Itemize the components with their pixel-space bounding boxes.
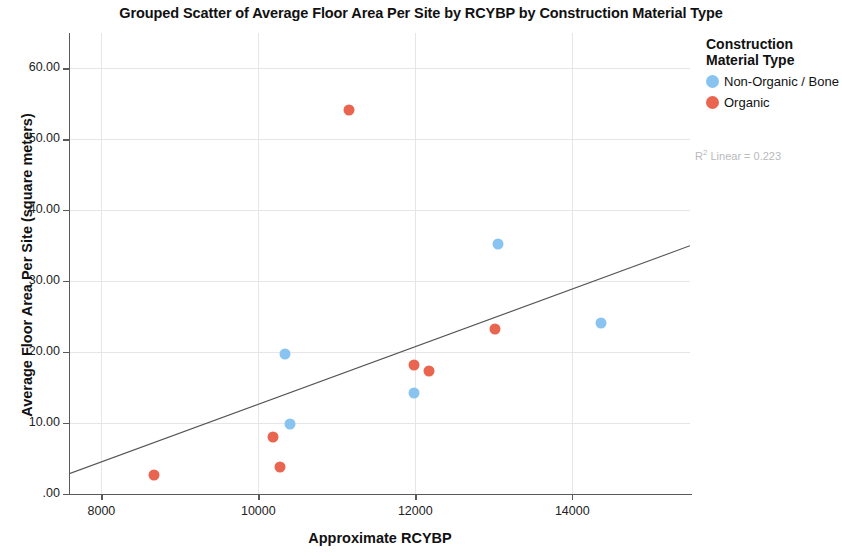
y-axis-tick-label: 50.00 (0, 131, 60, 145)
x-axis-tick-label: 10000 (223, 504, 293, 518)
data-point (275, 462, 286, 473)
x-axis-tick (572, 494, 573, 500)
chart-title: Grouped Scatter of Average Floor Area Pe… (0, 5, 842, 21)
data-point (596, 318, 607, 329)
y-axis-tick (63, 352, 70, 353)
x-axis-tick (258, 494, 259, 500)
data-point (492, 239, 503, 250)
data-point (343, 104, 354, 115)
data-point (284, 418, 295, 429)
y-axis-tick (63, 210, 70, 211)
y-axis-tick (63, 494, 70, 495)
r2-value-text: Linear = 0.223 (707, 150, 781, 162)
data-point (490, 323, 501, 334)
plot-area (70, 33, 690, 494)
y-axis-tick (63, 423, 70, 424)
x-axis-tick-label: 14000 (537, 504, 607, 518)
y-axis-spine (69, 33, 70, 495)
y-axis-tick-label: 60.00 (0, 60, 60, 74)
x-axis-spine (70, 494, 692, 495)
data-point (148, 469, 159, 480)
x-axis-tick-label: 8000 (66, 504, 136, 518)
legend-item-label: Non-Organic / Bone (724, 74, 839, 89)
data-point (408, 387, 419, 398)
regression-line (70, 246, 690, 474)
y-axis-tick-label: 30.00 (0, 273, 60, 287)
x-axis-tick-label: 12000 (380, 504, 450, 518)
y-axis-label: Average Floor Area Per Site (square mete… (19, 30, 35, 500)
x-axis-tick (101, 494, 102, 500)
y-axis-tick (63, 281, 70, 282)
data-point (424, 366, 435, 377)
legend-title: Construction Material Type (706, 36, 826, 68)
r2-annotation: R2 Linear = 0.223 (695, 148, 781, 162)
legend-title-line-1: Construction (706, 36, 826, 52)
x-axis-label: Approximate RCYBP (70, 530, 690, 546)
r2-symbol: R (695, 150, 703, 162)
legend-item-label: Organic (724, 95, 770, 110)
y-axis-tick-label: .00 (0, 486, 60, 500)
data-point (280, 348, 291, 359)
y-axis-tick-label: 20.00 (0, 344, 60, 358)
legend-marker-icon (706, 96, 719, 109)
y-axis-tick-label: 10.00 (0, 415, 60, 429)
legend: Construction Material Type Non-Organic /… (706, 36, 842, 110)
regression-line-layer (70, 33, 690, 494)
x-axis-tick (415, 494, 416, 500)
legend-entries: Non-Organic / BoneOrganic (706, 74, 842, 110)
data-point (408, 359, 419, 370)
legend-marker-icon (706, 75, 719, 88)
data-point (268, 431, 279, 442)
legend-item[interactable]: Non-Organic / Bone (706, 74, 842, 89)
scatter-chart: Grouped Scatter of Average Floor Area Pe… (0, 0, 842, 556)
y-axis-label-wrapper: Average Floor Area Per Site (square mete… (0, 0, 23, 520)
y-axis-tick (63, 68, 70, 69)
y-axis-tick-label: 40.00 (0, 202, 60, 216)
legend-title-line-2: Material Type (706, 52, 826, 68)
legend-item[interactable]: Organic (706, 95, 842, 110)
y-axis-tick (63, 139, 70, 140)
